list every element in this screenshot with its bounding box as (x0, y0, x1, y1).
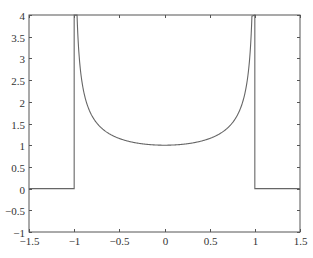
axes-frame (29, 15, 300, 232)
y-tick-label: 2 (20, 97, 26, 109)
plot-area (29, 15, 300, 189)
x-tick-label: 0.5 (204, 235, 218, 247)
y-tick-label: −1 (13, 227, 25, 239)
x-tick-label: −0.5 (110, 235, 130, 247)
y-tick-label: 1 (20, 140, 26, 152)
axes-box (29, 15, 300, 232)
x-tick-label: 1 (253, 235, 259, 247)
x-axis-tick-labels: −1.5−1−0.500.511.5 (20, 235, 308, 247)
tick-marks (29, 15, 301, 233)
y-tick-label: 0 (20, 184, 26, 196)
x-tick-label: −1 (69, 235, 81, 247)
line-chart: −1.5−1−0.500.511.5 −1−0.500.511.522.533.… (0, 0, 313, 258)
y-axis-tick-labels: −1−0.500.511.522.533.54 (5, 10, 25, 239)
y-tick-label: 3 (20, 53, 26, 65)
y-tick-label: 1.5 (11, 119, 25, 131)
y-tick-label: −0.5 (5, 205, 25, 217)
y-tick-label: 2.5 (11, 75, 25, 87)
y-tick-label: 4 (20, 10, 26, 22)
series-line (29, 15, 300, 189)
y-tick-label: 3.5 (11, 32, 25, 44)
x-tick-label: 0 (163, 235, 169, 247)
y-tick-label: 0.5 (11, 162, 25, 174)
x-tick-label: 1.5 (294, 235, 308, 247)
